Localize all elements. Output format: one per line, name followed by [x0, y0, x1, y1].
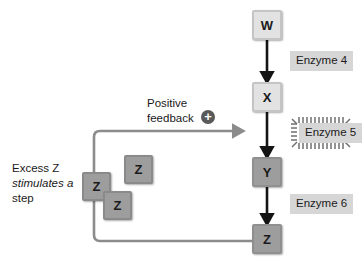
- positive-feedback-caption-line2: feedback: [147, 111, 194, 126]
- enzyme-label-enzyme5-activated: Enzyme 5: [288, 115, 362, 151]
- node-y-label: Y: [263, 165, 272, 180]
- plus-symbol: +: [204, 110, 212, 123]
- z-chip-lower[interactable]: Z: [103, 191, 132, 220]
- node-x[interactable]: X: [252, 82, 282, 112]
- positive-feedback-caption-line1: Positive: [147, 96, 187, 111]
- annotation-line1: Excess Z: [12, 161, 59, 176]
- node-w[interactable]: W: [252, 10, 282, 40]
- annotation-line2: stimulates a: [12, 176, 73, 191]
- enzyme-label-enzyme5-text: Enzyme 5: [299, 123, 362, 143]
- z-chip-upper-right-label: Z: [135, 162, 143, 177]
- enzyme-label-enzyme6: Enzyme 6: [290, 194, 353, 214]
- z-chip-upper-right[interactable]: Z: [124, 155, 153, 184]
- node-z[interactable]: Z: [252, 224, 282, 254]
- diagram-canvas: W X Y Z Enzyme 4 Enzyme 5 Enzyme 6 Posit…: [0, 0, 363, 264]
- node-z-label: Z: [263, 232, 271, 247]
- node-x-label: X: [263, 90, 272, 105]
- z-chip-left-label: Z: [93, 179, 101, 194]
- z-chip-lower-label: Z: [114, 198, 122, 213]
- enzyme-label-enzyme4: Enzyme 4: [290, 51, 353, 71]
- positive-feedback-path: [94, 131, 252, 241]
- annotation-line3: step: [12, 191, 34, 206]
- node-w-label: W: [261, 18, 273, 33]
- node-y[interactable]: Y: [252, 157, 282, 187]
- plus-circle-icon: +: [201, 110, 215, 124]
